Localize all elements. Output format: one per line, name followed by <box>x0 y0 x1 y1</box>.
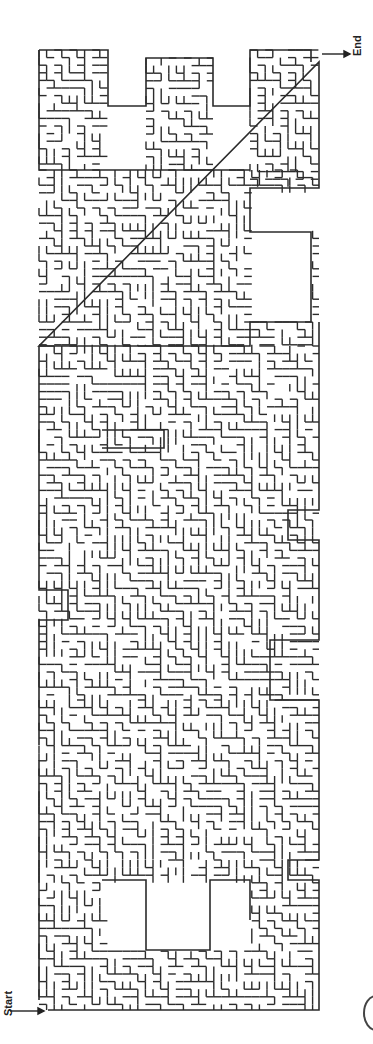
maze-board <box>0 0 373 1044</box>
start-label: Start <box>2 991 14 1016</box>
start-arrow-icon <box>10 1008 44 1014</box>
end-label: End <box>351 35 363 56</box>
maze-outline <box>39 50 319 1010</box>
end-arrow-icon <box>322 51 350 57</box>
maze-interior-walls <box>39 50 319 1010</box>
